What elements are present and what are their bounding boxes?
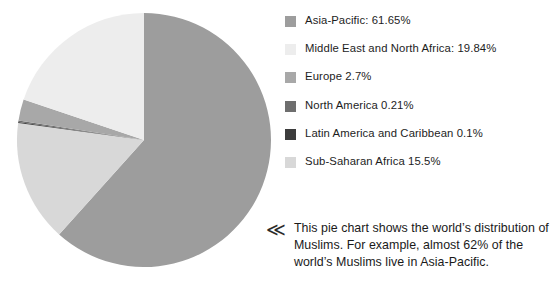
pie-chart <box>0 0 280 307</box>
legend-item-sub-saharan-africa: Sub-Saharan Africa 15.5% <box>285 154 553 182</box>
chart-caption: ≪ This pie chart shows the world’s distr… <box>266 220 551 272</box>
legend-label-north-america: North America 0.21% <box>305 98 414 113</box>
legend-swatch-north-america <box>285 101 296 112</box>
legend-item-europe: Europe 2.7% <box>285 69 553 97</box>
legend-label-asia-pacific: Asia-Pacific: 61.65% <box>305 13 411 28</box>
chart-legend: Asia-Pacific: 61.65% Middle East and Nor… <box>285 13 553 182</box>
caption-text: This pie chart shows the world’s distrib… <box>294 220 551 272</box>
legend-item-latin-america-caribbean: Latin America and Caribbean 0.1% <box>285 126 553 154</box>
legend-item-north-america: North America 0.21% <box>285 98 553 126</box>
legend-swatch-europe <box>285 72 296 83</box>
legend-label-sub-saharan-africa: Sub-Saharan Africa 15.5% <box>305 154 441 169</box>
double-chevron-left-icon: ≪ <box>266 221 286 238</box>
pie-chart-container <box>0 0 280 307</box>
legend-label-latin-america-caribbean: Latin America and Caribbean 0.1% <box>305 126 483 141</box>
legend-swatch-middle-east-north-africa <box>285 44 296 55</box>
legend-label-middle-east-north-africa: Middle East and North Africa: 19.84% <box>305 41 496 56</box>
legend-swatch-sub-saharan-africa <box>285 157 296 168</box>
legend-label-europe: Europe 2.7% <box>305 69 371 84</box>
legend-item-asia-pacific: Asia-Pacific: 61.65% <box>285 13 553 41</box>
legend-swatch-asia-pacific <box>285 16 296 27</box>
legend-item-middle-east-north-africa: Middle East and North Africa: 19.84% <box>285 41 553 69</box>
legend-swatch-latin-america-caribbean <box>285 129 296 140</box>
